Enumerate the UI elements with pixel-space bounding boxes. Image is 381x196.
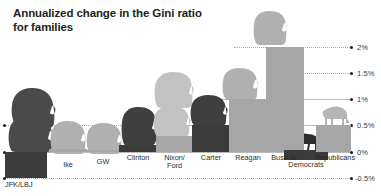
- bar-jfk-lbj[interactable]: [5, 152, 47, 178]
- category-label-jfk-lbj: JFK/LBJ: [5, 181, 55, 189]
- bar-bush-sr[interactable]: [266, 47, 304, 152]
- elephant-icon: [321, 106, 351, 126]
- category-label-clinton: Clinton: [118, 154, 158, 162]
- bar-clinton[interactable]: [119, 145, 157, 152]
- bar-reagan[interactable]: [229, 99, 267, 152]
- axis-dot-2pct: [350, 46, 353, 49]
- head-silhouette-icon-reagan: [222, 68, 258, 100]
- left-marker-0_5pct: [3, 124, 6, 127]
- category-label-republicans: Republicans: [313, 154, 357, 162]
- axis-dot-1pct: [350, 98, 353, 101]
- category-label-reagan: Reagan: [228, 154, 268, 162]
- axis-label-0_5pct: 0.5%: [357, 121, 375, 130]
- head-silhouette-icon-nixon: [154, 72, 194, 108]
- bar-ike[interactable]: [49, 149, 87, 152]
- axis-label-1_5pct: 1.5%: [357, 69, 375, 78]
- head-silhouette-icon-clinton: [121, 107, 157, 146]
- category-label-nixon-ford: Nixon/ Ford: [155, 154, 194, 170]
- axis-dot-neg0_5pct: [350, 177, 353, 180]
- gridline-neg0_5pct: [5, 178, 350, 179]
- axis-label-neg0_5pct: -0.5%: [355, 174, 375, 183]
- head-silhouette-icon-bush-sr: [253, 11, 287, 45]
- axis-label-1pct: 1%: [357, 95, 368, 104]
- bar-nixon-ford[interactable]: [156, 136, 193, 152]
- category-label-carter: Carter: [191, 154, 231, 162]
- gini-ratio-chart: Annualized change in the Gini ratio for …: [0, 0, 381, 196]
- bar-carter[interactable]: [192, 125, 230, 152]
- axis-label-0pct: 0%: [357, 148, 368, 157]
- head-silhouette-icon-ford: [153, 106, 191, 137]
- axis-dot-1_5pct: [350, 72, 353, 75]
- category-label-ike: Ike: [49, 161, 87, 169]
- bar-gw[interactable]: [85, 150, 121, 152]
- bar-republicans[interactable]: [316, 125, 351, 152]
- axis-label-2pct: 2%: [357, 43, 368, 52]
- head-silhouette-icon-lbj: [8, 116, 54, 152]
- category-label-gw: GW: [85, 158, 121, 166]
- plot-area: 2% 1.5% 1% 0.5% 0% -0.5%: [0, 0, 381, 196]
- category-label-democrats: Democrats: [283, 161, 329, 169]
